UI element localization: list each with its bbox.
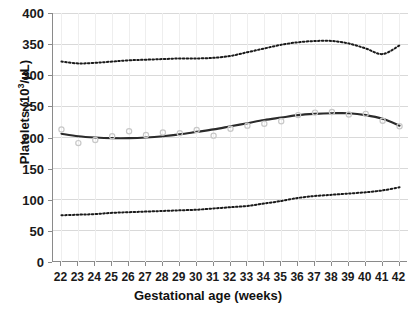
x-tick-mark xyxy=(145,262,146,266)
chart-canvas xyxy=(53,13,408,262)
x-axis-label: Gestational age (weeks) xyxy=(0,288,416,303)
x-tick-mark xyxy=(280,262,281,266)
y-tick-label: 350 xyxy=(0,38,44,51)
y-tick-label: 50 xyxy=(0,225,44,238)
x-tick-mark xyxy=(365,262,366,266)
y-axis-label-exponent: 3 xyxy=(16,83,26,88)
x-tick-mark xyxy=(263,262,264,266)
x-tick-mark xyxy=(128,262,129,266)
x-tick-mark xyxy=(314,262,315,266)
y-tick-label: 150 xyxy=(0,163,44,176)
y-tick-label: 400 xyxy=(0,7,44,20)
x-tick-mark xyxy=(94,262,95,266)
x-tick-mark xyxy=(179,262,180,266)
x-tick-mark xyxy=(331,262,332,266)
x-tick-mark xyxy=(399,262,400,266)
y-tick-label: 100 xyxy=(0,194,44,207)
x-tick-mark xyxy=(77,262,78,266)
y-tick-label: 0 xyxy=(0,256,44,269)
x-tick-mark xyxy=(230,262,231,266)
x-tick-label: 42 xyxy=(388,271,410,283)
x-tick-mark xyxy=(213,262,214,266)
x-tick-mark xyxy=(60,262,61,266)
x-tick-mark xyxy=(196,262,197,266)
y-tick-mark xyxy=(48,262,52,263)
y-tick-label: 200 xyxy=(0,132,44,145)
chart-figure: Platelets (103/µL) 050100150200250300350… xyxy=(0,0,416,309)
y-tick-label: 250 xyxy=(0,100,44,113)
plot-area xyxy=(52,13,407,262)
x-tick-mark xyxy=(297,262,298,266)
x-tick-mark xyxy=(246,262,247,266)
x-tick-mark xyxy=(382,262,383,266)
y-tick-label: 300 xyxy=(0,69,44,82)
x-tick-mark xyxy=(162,262,163,266)
x-tick-mark xyxy=(111,262,112,266)
x-tick-mark xyxy=(348,262,349,266)
